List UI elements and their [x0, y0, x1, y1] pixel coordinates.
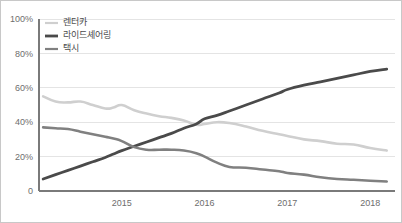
- y-axis-tick-labels: 020%40%60%80%100%: [10, 14, 33, 196]
- y-axis-tick-label: 0: [28, 186, 33, 196]
- y-axis-tick-label: 80%: [15, 49, 33, 59]
- x-axis-tick-label: 2018: [360, 198, 380, 208]
- chart-canvas: 020%40%60%80%100% 2015201620172018 렌터카라이…: [1, 1, 402, 223]
- y-axis-tick-label: 100%: [10, 14, 33, 24]
- chart-legend: 렌터카라이드셰어링택시: [45, 17, 111, 53]
- line-chart: 020%40%60%80%100% 2015201620172018 렌터카라이…: [0, 0, 402, 223]
- series-line: [43, 127, 387, 181]
- legend-label: 택시: [63, 43, 79, 53]
- y-axis-tick-label: 60%: [15, 83, 33, 93]
- series-line: [43, 96, 387, 150]
- legend-label: 라이드셰어링: [63, 29, 111, 40]
- x-axis-tick-label: 2017: [277, 198, 297, 208]
- x-axis-tick-label: 2015: [112, 198, 132, 208]
- data-series-group: [43, 69, 387, 181]
- x-axis-tick-label: 2016: [195, 198, 215, 208]
- y-axis-tick-label: 20%: [15, 152, 33, 162]
- x-axis-tick-labels: 2015201620172018: [112, 198, 380, 208]
- y-axis-tick-label: 40%: [15, 117, 33, 127]
- legend-label: 렌터카: [63, 17, 87, 27]
